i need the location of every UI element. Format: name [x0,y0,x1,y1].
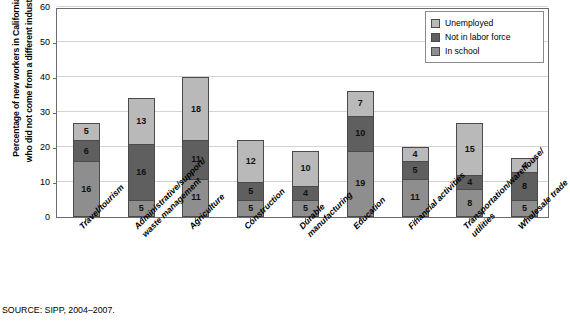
y-tick-label-40: 40 [24,73,50,82]
bar-segment[interactable]: 4 [292,186,319,200]
legend-swatch-icon [431,19,440,28]
bar-segment[interactable]: 7 [347,91,374,116]
gridline-60 [57,6,548,7]
bar-segment[interactable]: 5 [237,182,264,200]
source-note: SOURCE: SIPP, 2004–2007. [2,305,115,315]
y-tick-label-0: 0 [24,213,50,222]
bar-segment[interactable]: 15 [456,123,483,176]
y-axis-title-line2: who did not come from a different indust… [23,0,36,187]
y-tick-label-20: 20 [24,143,50,152]
bar-segment[interactable]: 4 [402,147,429,161]
bar-segment-value: 16 [136,168,146,177]
bar-segment[interactable]: 5 [402,161,429,179]
legend-item-label: In school [445,46,479,56]
legend-item-label: Unemployed [445,18,493,28]
y-tick-label-50: 50 [24,38,50,47]
y-tick-label-60: 60 [24,3,50,12]
y-axis-title-line1: Percentage of new workers in California [10,0,23,187]
legend-item-3[interactable]: In school [431,44,538,58]
bar-segment[interactable]: 10 [292,151,319,186]
bar-2[interactable]: 13165 [128,98,155,217]
bar-segment-value: 4 [467,178,472,187]
bar-segment-value: 18 [191,105,201,114]
bar-segment-value: 5 [413,166,418,175]
bar-segment[interactable]: 10 [347,116,374,151]
bar-1[interactable]: 5616 [73,123,100,218]
bar-segment-value: 12 [246,157,256,166]
bar-segment-value: 8 [467,199,472,208]
bar-segment-value: 7 [358,99,363,108]
bar-segment-value: 10 [355,129,365,138]
bar-segment-value: 19 [355,179,365,188]
bar-segment[interactable]: 18 [182,77,209,140]
bar-segment[interactable]: 13 [128,98,155,144]
chart-legend: UnemployedNot in labor forceIn school [425,11,544,63]
bar-segment-value: 10 [300,164,310,173]
bar-segment-value: 6 [84,147,89,156]
y-axis-title: Percentage of new workers in California … [10,0,40,187]
y-tick-label-10: 10 [24,178,50,187]
gridline-40 [57,76,548,77]
bar-segment[interactable]: 12 [237,140,264,182]
bar-segment-value: 15 [465,145,475,154]
bar-segment-value: 16 [81,185,91,194]
bar-segment-value: 5 [248,204,253,213]
bar-segment-value: 5 [248,187,253,196]
bar-segment-value: 5 [84,127,89,136]
bar-segment-value: 11 [410,193,420,202]
bar-segment-value: 5 [522,204,527,213]
legend-item-label: Not in labor force [445,32,510,42]
bar-segment-value: 5 [303,204,308,213]
legend-swatch-icon [431,33,440,42]
bar-segment[interactable]: 5 [73,123,100,141]
legend-item-1[interactable]: Unemployed [431,16,538,30]
bar-segment-value: 4 [303,189,308,198]
legend-item-2[interactable]: Not in labor force [431,30,538,44]
y-tick-label-30: 30 [24,108,50,117]
legend-swatch-icon [431,47,440,56]
bar-segment-value: 4 [413,150,418,159]
bar-segment-value: 13 [136,117,146,126]
bar-segment-value: 11 [191,193,201,202]
bar-segment[interactable]: 16 [128,144,155,200]
bar-segment[interactable]: 6 [73,140,100,161]
